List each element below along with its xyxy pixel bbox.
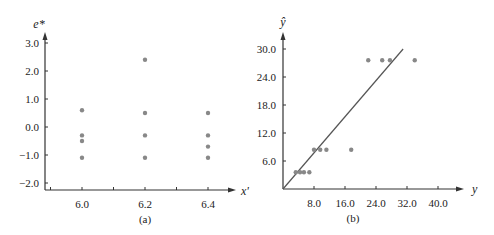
data-point (318, 148, 322, 152)
data-point (143, 58, 147, 62)
data-point (206, 156, 210, 160)
data-point (80, 108, 84, 112)
reference-line (283, 49, 403, 189)
x-axis-label: y (471, 182, 478, 196)
data-point (307, 170, 311, 174)
data-point (143, 111, 147, 115)
panel-label: (a) (139, 213, 152, 226)
panel-b-fitted-vs-observed-plot: ŷy30.024.018.012.06.08.016.024.032.040.0… (257, 15, 478, 225)
data-point (80, 133, 84, 137)
data-point (302, 170, 306, 174)
y-tick-label: 18.0 (257, 99, 277, 111)
y-tick-label: 1.0 (25, 93, 39, 105)
data-point (366, 58, 370, 62)
panel-a-residual-plot: e*x'3.02.01.00.0−1.0−2.06.06.26.4(a) (19, 17, 249, 226)
y-tick-label: −2.0 (19, 177, 39, 189)
y-axis-arrow-icon (281, 32, 286, 40)
y-tick-label: 3.0 (25, 37, 39, 49)
x-axis-arrow-icon (456, 187, 464, 192)
y-axis-label: ŷ (279, 15, 286, 29)
y-tick-label: 24.0 (257, 71, 277, 83)
x-tick-label: 6.2 (138, 198, 152, 210)
x-tick-label: 32.0 (397, 197, 417, 209)
data-point (298, 170, 302, 174)
y-axis-label: e* (33, 17, 44, 31)
y-tick-label: 2.0 (25, 65, 39, 77)
data-point (80, 156, 84, 160)
x-axis-label: x' (240, 184, 249, 198)
data-point (380, 58, 384, 62)
y-tick-label: −1.0 (19, 149, 39, 161)
data-point (206, 111, 210, 115)
x-tick-label: 16.0 (335, 197, 355, 209)
data-point (413, 58, 417, 62)
data-point (294, 170, 298, 174)
data-point (80, 139, 84, 143)
x-tick-label: 8.0 (307, 197, 321, 209)
x-tick-label: 6.0 (75, 198, 89, 210)
x-tick-label: 6.4 (201, 198, 215, 210)
y-tick-label: 6.0 (262, 155, 276, 167)
data-point (349, 148, 353, 152)
y-tick-label: 12.0 (257, 127, 277, 139)
panel-label: (b) (347, 212, 360, 225)
data-point (312, 148, 316, 152)
x-tick-label: 40.0 (428, 197, 448, 209)
y-tick-label: 0.0 (25, 121, 39, 133)
x-axis-arrow-icon (228, 188, 236, 193)
y-axis-arrow-icon (43, 32, 48, 40)
x-tick-label: 24.0 (366, 197, 386, 209)
data-point (388, 58, 392, 62)
figure: e*x'3.02.01.00.0−1.0−2.06.06.26.4(a) ŷy3… (0, 0, 494, 235)
data-point (143, 156, 147, 160)
y-tick-label: 30.0 (257, 43, 277, 55)
data-point (143, 133, 147, 137)
data-point (324, 148, 328, 152)
data-point (206, 144, 210, 148)
data-point (206, 133, 210, 137)
